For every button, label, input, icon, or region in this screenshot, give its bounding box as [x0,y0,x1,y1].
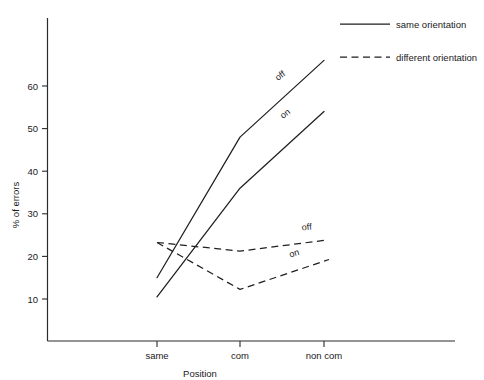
legend-label-different-orientation: different orientation [396,52,477,63]
series-annotation-dashed-off: off [301,221,312,232]
y-tick-label-40: 40 [27,166,38,177]
series-annotation-dashed-on: on [288,247,300,259]
y-axis-title: % of errors [10,182,21,229]
series-line-different-orientation-off [157,240,324,251]
x-tick-label-com: com [231,350,249,361]
y-tick-label-10: 10 [27,294,38,305]
y-tick-label-30: 30 [27,208,38,219]
chart-figure: 10 20 30 40 50 60 % of errors same com n… [0,0,484,380]
series-line-same-orientation-on [157,112,324,297]
y-axis-ticks [42,86,48,299]
series-line-different-orientation-on [157,243,329,290]
series-annotation-solid-off: off [273,68,287,82]
y-tick-label-50: 50 [27,123,38,134]
line-chart: 10 20 30 40 50 60 % of errors same com n… [0,0,484,380]
y-tick-label-60: 60 [27,81,38,92]
legend-label-same-orientation: same orientation [396,19,466,30]
x-axis-ticks [157,341,324,347]
series-annotation-solid-on: on [278,107,292,121]
x-tick-label-non-com: non com [306,350,343,361]
x-axis-title: Position [183,368,217,379]
x-tick-label-same: same [145,350,168,361]
y-tick-label-20: 20 [27,251,38,262]
chart-legend: same orientation different orientation [340,19,477,63]
